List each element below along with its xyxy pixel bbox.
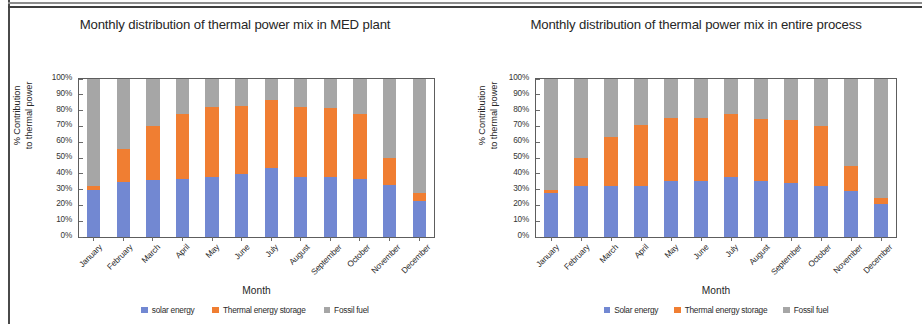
x-axis-category-label: June — [691, 242, 710, 261]
bar-slot — [79, 79, 109, 237]
stacked-bar[interactable] — [544, 79, 558, 237]
bar-segment-thermal-energy-storage — [694, 118, 708, 181]
legend-item[interactable]: Thermal energy storage — [674, 305, 767, 315]
bar-segment-solar-energy — [176, 179, 189, 237]
stacked-bar[interactable] — [664, 79, 678, 237]
stacked-bar[interactable] — [784, 79, 798, 237]
bar-segment-fossil-fuel — [265, 79, 278, 100]
stacked-bar[interactable] — [874, 79, 888, 237]
y-axis-title-line1: % Contribution — [12, 56, 24, 176]
bar-segment-thermal-energy-storage — [176, 114, 189, 180]
y-axis-tick-label: 80% — [513, 105, 529, 114]
bar-slot — [746, 79, 776, 237]
y-axis-tick-label: 40% — [56, 168, 72, 177]
bar-segment-thermal-energy-storage — [574, 158, 588, 186]
y-axis-tick-label: 90% — [513, 89, 529, 98]
y-axis-title-line1: % Contribution — [477, 56, 489, 176]
bar-slot — [286, 79, 316, 237]
bar-segment-fossil-fuel — [724, 79, 738, 114]
bar-segment-fossil-fuel — [634, 79, 648, 125]
stacked-bar[interactable] — [353, 79, 366, 237]
x-axis-category-label: July — [263, 242, 280, 259]
y-axis-tick-label: 40% — [513, 168, 529, 177]
y-axis-title-line2: to thermal power — [488, 56, 500, 176]
legend-item[interactable]: solar energy — [141, 305, 194, 315]
bar-slot — [596, 79, 626, 237]
bar-segment-fossil-fuel — [205, 79, 218, 107]
bar-segment-solar-energy — [294, 177, 307, 237]
stacked-bar[interactable] — [117, 79, 130, 237]
x-axis-category-label: May — [203, 242, 221, 260]
x-axis-category-label: December — [861, 242, 894, 275]
stacked-bar[interactable] — [754, 79, 768, 237]
bar-segment-fossil-fuel — [784, 79, 798, 120]
x-axis-category-label: February — [104, 242, 134, 272]
bar-segment-solar-energy — [574, 186, 588, 237]
stacked-bar[interactable] — [87, 79, 100, 237]
stacked-bar[interactable] — [604, 79, 618, 237]
stacked-bar[interactable] — [383, 79, 396, 237]
bar-segment-solar-energy — [235, 174, 248, 237]
bar-segment-solar-energy — [265, 168, 278, 237]
stacked-bar[interactable] — [205, 79, 218, 237]
legend-label: Fossil fuel — [794, 305, 829, 315]
y-axis-tick-label: 0% — [61, 231, 72, 240]
bar-slot — [686, 79, 716, 237]
legend-item[interactable]: Solar energy — [604, 305, 659, 315]
bar-segment-fossil-fuel — [694, 79, 708, 118]
legend-label: Fossil fuel — [334, 305, 369, 315]
bar-segment-fossil-fuel — [544, 79, 558, 190]
stacked-bar[interactable] — [176, 79, 189, 237]
stacked-bar[interactable] — [814, 79, 828, 237]
bar-slot — [716, 79, 746, 237]
stacked-bar[interactable] — [724, 79, 738, 237]
bar-segment-thermal-energy-storage — [664, 118, 678, 181]
bar-segment-solar-energy — [814, 186, 828, 237]
stacked-bar[interactable] — [265, 79, 278, 237]
stacked-bar[interactable] — [324, 79, 337, 237]
bar-slot — [138, 79, 168, 237]
bar-segment-thermal-energy-storage — [413, 193, 426, 201]
stacked-bar[interactable] — [146, 79, 159, 237]
y-axis-tick-label: 50% — [56, 152, 72, 161]
bar-segment-fossil-fuel — [324, 79, 337, 108]
stacked-bar[interactable] — [574, 79, 588, 237]
bar-segment-fossil-fuel — [87, 79, 100, 186]
x-axis-category-label: April — [632, 242, 650, 260]
bar-segment-solar-energy — [844, 191, 858, 237]
bar-slot — [536, 79, 566, 237]
stacked-bar[interactable] — [634, 79, 648, 237]
stacked-bar[interactable] — [294, 79, 307, 237]
y-axis-tick-label: 50% — [513, 152, 529, 161]
bar-slot — [227, 79, 257, 237]
legend-item[interactable]: Fossil fuel — [783, 305, 828, 315]
x-axis-category-label: June — [232, 242, 251, 261]
bar-segment-solar-energy — [784, 183, 798, 237]
bar-segment-solar-energy — [117, 182, 130, 237]
x-axis-category-label: November — [831, 242, 864, 275]
x-axis-category-label: October — [805, 242, 832, 269]
x-axis-category-label: January — [534, 242, 561, 269]
bar-segment-solar-energy — [87, 190, 100, 237]
bar-segment-solar-energy — [634, 186, 648, 237]
y-axis-tick-label: 70% — [513, 120, 529, 129]
bar-slot — [626, 79, 656, 237]
bar-segment-fossil-fuel — [814, 79, 828, 126]
legend-item[interactable]: Fossil fuel — [324, 305, 369, 315]
bar-segment-thermal-energy-storage — [117, 149, 130, 182]
bar-segment-fossil-fuel — [176, 79, 189, 114]
y-axis-tick-label: 80% — [56, 105, 72, 114]
bar-slot — [168, 79, 198, 237]
plot-area: 100%90%80%70%60%50%40%30%20%10%0% — [535, 78, 897, 238]
legend-item[interactable]: Thermal energy storage — [212, 305, 305, 315]
stacked-bar[interactable] — [694, 79, 708, 237]
stacked-bar[interactable] — [844, 79, 858, 237]
bar-segment-thermal-energy-storage — [383, 158, 396, 185]
bar-slot — [109, 79, 139, 237]
bar-slot — [316, 79, 346, 237]
stacked-bar[interactable] — [235, 79, 248, 237]
y-axis-tick-label: 30% — [56, 184, 72, 193]
bar-slot — [375, 79, 405, 237]
bar-slot — [776, 79, 806, 237]
stacked-bar[interactable] — [413, 79, 426, 237]
